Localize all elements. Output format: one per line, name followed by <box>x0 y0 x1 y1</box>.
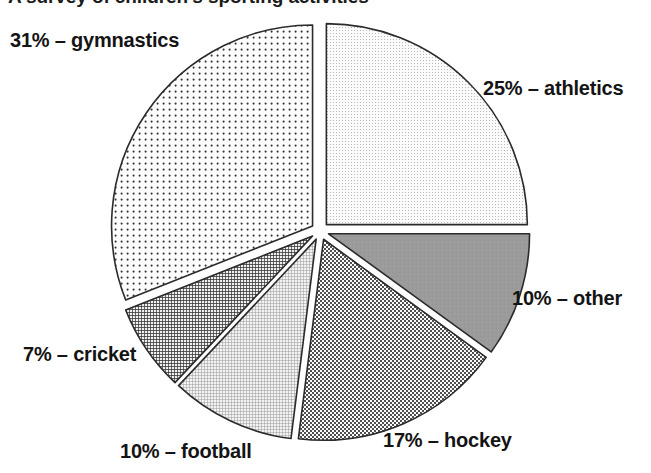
slice-label-gymnastics: 31% – gymnastics <box>10 30 179 50</box>
slice-label-football: 10% – football <box>120 441 252 461</box>
pie-chart-graphic <box>0 0 651 473</box>
slice-label-cricket: 7% – cricket <box>23 344 136 364</box>
slice-label-other: 10% – other <box>512 288 622 308</box>
slice-label-athletics: 25% – athletics <box>483 78 623 98</box>
chart-area: 31% – gymnastics 25% – athletics 10% – o… <box>0 0 651 473</box>
pie-slices-group <box>112 24 530 441</box>
slice-label-hockey: 17% – hockey <box>383 430 512 450</box>
pie-slice-athletics <box>326 24 527 225</box>
pie-chart-screenshot: A survey of children's sporting activiti… <box>0 0 651 473</box>
